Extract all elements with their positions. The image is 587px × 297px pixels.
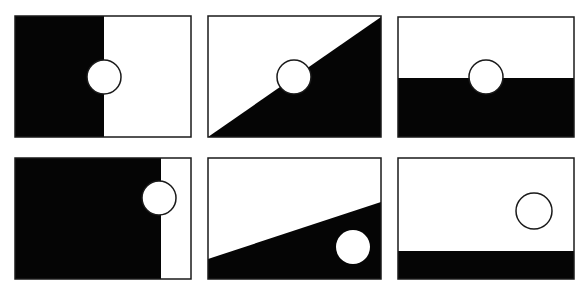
panel-1-circle xyxy=(87,60,121,94)
panel-6-bottom-band xyxy=(398,158,574,279)
panel-5-shallow-wedge xyxy=(208,158,381,279)
panel-2-circle xyxy=(277,60,311,94)
panel-1-vertical-split xyxy=(15,16,191,137)
panel-3-circle xyxy=(469,60,503,94)
panel-6-dark-area xyxy=(398,251,574,279)
panel-2-diagonal-split xyxy=(208,16,381,137)
panel-6-circle xyxy=(516,193,552,229)
panel-3-horizontal-split xyxy=(398,17,574,137)
composition-balance-diagram xyxy=(0,0,587,297)
panel-4-dark-area xyxy=(15,158,161,279)
panel-5-circle xyxy=(336,230,370,264)
panel-4-circle xyxy=(142,181,176,215)
panel-4-large-dark-block xyxy=(15,158,191,279)
